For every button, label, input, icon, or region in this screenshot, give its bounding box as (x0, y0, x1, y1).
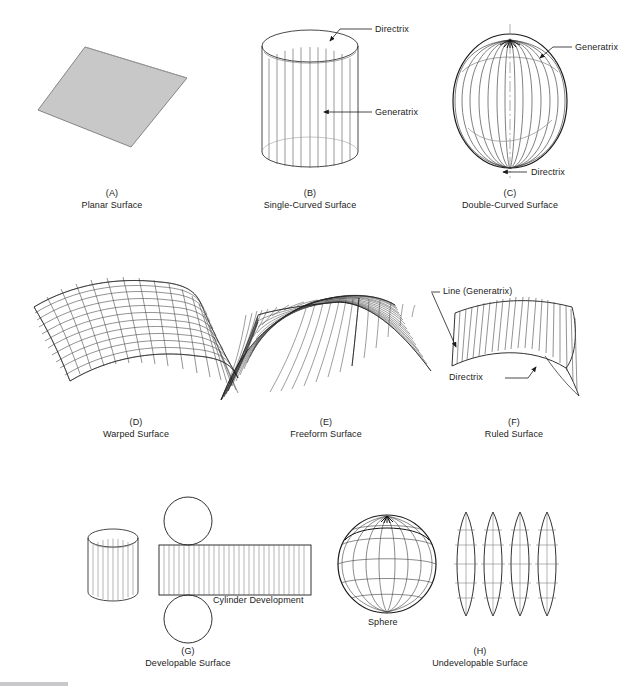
caption-f-label: Ruled Surface (434, 429, 594, 441)
caption-a-label: Planar Surface (32, 200, 192, 212)
directrix-leader-f (505, 367, 536, 378)
caption-d-id: (D) (56, 417, 216, 429)
caption-g-label: Developable Surface (108, 658, 268, 670)
cylinder-development-elements (164, 545, 304, 595)
cylinder-generatrix-lines (269, 47, 350, 168)
g-cylinder (88, 529, 138, 601)
gore-2 (481, 512, 505, 616)
panel-g-developable-surface (88, 497, 311, 643)
gore-4 (535, 512, 559, 616)
gore-3 (508, 512, 532, 616)
sphere-latitude-lines (338, 526, 436, 599)
caption-e-id: (E) (246, 417, 406, 429)
caption-d: (D) Warped Surface (56, 417, 216, 440)
page-edge-bar (0, 682, 68, 686)
development-bottom-circle (164, 595, 212, 643)
surface-types-figure: Directrix Generatrix Generatrix Directri… (0, 0, 635, 691)
caption-a-id: (A) (32, 188, 192, 200)
label-cylinder-development: Cylinder Development (213, 595, 304, 606)
caption-h-id: (H) (390, 646, 570, 658)
caption-e: (E) Freeform Surface (246, 417, 406, 440)
figure-drawing (0, 0, 635, 691)
label-directrix-f: Directrix (449, 372, 483, 383)
label-generatrix-b: Generatrix (375, 107, 418, 118)
panel-e-freeform-surface (221, 295, 431, 400)
caption-f-id: (F) (434, 417, 594, 429)
caption-f: (F) Ruled Surface (434, 417, 594, 440)
caption-d-label: Warped Surface (56, 429, 216, 441)
warped-v-curves (34, 277, 238, 393)
label-directrix-c: Directrix (531, 167, 565, 178)
directrix-leader-b (330, 29, 372, 41)
gore-1 (454, 512, 478, 616)
ruled-flare-edge (545, 356, 579, 396)
caption-c-label: Double-Curved Surface (430, 200, 590, 212)
g-cylinder-elements (93, 539, 133, 601)
development-top-circle (164, 497, 212, 545)
caption-b: (B) Single-Curved Surface (230, 188, 390, 211)
panel-c-ellipsoid (453, 24, 572, 178)
generatrix-leader-f (432, 293, 456, 347)
caption-g-id: (G) (108, 646, 268, 658)
label-sphere: Sphere (368, 617, 398, 628)
caption-e-label: Freeform Surface (246, 429, 406, 441)
caption-h: (H) Undevelopable Surface (390, 646, 570, 669)
h-sphere (338, 515, 436, 613)
planar-surface-shape (38, 47, 187, 147)
freeform-u-curves (221, 295, 431, 400)
caption-b-id: (B) (230, 188, 390, 200)
sphere-longitude-lines (342, 516, 432, 612)
warped-border (34, 280, 238, 381)
caption-g: (G) Developable Surface (108, 646, 268, 669)
caption-h-label: Undevelopable Surface (390, 658, 570, 670)
ruled-top-edge (455, 301, 572, 313)
panel-h-undevelopable-surface (338, 512, 559, 616)
panel-b-cylinder (262, 29, 372, 168)
label-directrix-b: Directrix (375, 24, 409, 35)
label-line-generatrix-f: Line (Generatrix) (443, 286, 512, 297)
caption-c-id: (C) (430, 188, 590, 200)
caption-b-label: Single-Curved Surface (230, 200, 390, 212)
ruled-right-end (566, 307, 575, 368)
caption-a: (A) Planar Surface (32, 188, 192, 211)
h-gores (454, 512, 559, 616)
ruled-bottom-edge (452, 353, 566, 368)
panel-a-planar-surface (38, 47, 187, 147)
caption-c: (C) Double-Curved Surface (430, 188, 590, 211)
cylinder-development-rect (159, 545, 311, 595)
label-generatrix-c: Generatrix (575, 42, 618, 53)
